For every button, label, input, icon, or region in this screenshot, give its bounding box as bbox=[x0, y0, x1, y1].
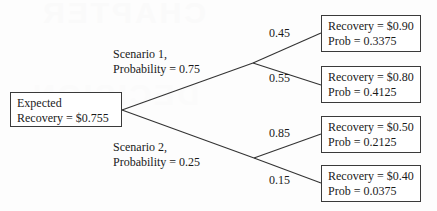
leaf-node-1: Recovery = $0.90 Prob = 0.3375 bbox=[321, 15, 421, 52]
leaf-node-3: Recovery = $0.50 Prob = 0.2125 bbox=[321, 116, 421, 153]
branch-label-scenario-1-line-2: Probability = 0.75 bbox=[113, 62, 200, 77]
leaf-node-2-prob: Prob = 0.4125 bbox=[328, 85, 415, 100]
leaf-node-1-recovery: Recovery = $0.90 bbox=[328, 19, 415, 34]
leaf-node-2-recovery: Recovery = $0.80 bbox=[328, 70, 415, 85]
edge-label-0-55: 0.55 bbox=[269, 71, 290, 85]
branch-label-scenario-2-line-2: Probability = 0.25 bbox=[113, 155, 200, 170]
edge-label-0-85: 0.85 bbox=[269, 126, 290, 140]
edge-label-0-15: 0.15 bbox=[269, 173, 290, 187]
leaf-node-2: Recovery = $0.80 Prob = 0.4125 bbox=[321, 66, 421, 103]
branch-label-scenario-2-line-1: Scenario 2, bbox=[113, 140, 200, 155]
edge-label-0-45: 0.45 bbox=[269, 26, 290, 40]
branch-label-scenario-1: Scenario 1, Probability = 0.75 bbox=[113, 47, 200, 77]
branch-label-scenario-1-line-1: Scenario 1, bbox=[113, 47, 200, 62]
leaf-node-4-recovery: Recovery = $0.40 bbox=[328, 169, 415, 184]
root-node-line-1: Expected bbox=[17, 96, 116, 111]
leaf-node-4: Recovery = $0.40 Prob = 0.0375 bbox=[321, 165, 421, 202]
branch-label-scenario-2: Scenario 2, Probability = 0.25 bbox=[113, 140, 200, 170]
leaf-node-3-prob: Prob = 0.2125 bbox=[328, 135, 415, 150]
root-node-line-2: Recovery = $0.755 bbox=[17, 111, 116, 126]
root-node-expected-recovery: Expected Recovery = $0.755 bbox=[10, 92, 122, 127]
leaf-node-1-prob: Prob = 0.3375 bbox=[328, 34, 415, 49]
decision-tree-figure: CHAPTER DECISION Expected Recovery = $0.… bbox=[0, 0, 437, 211]
leaf-node-3-recovery: Recovery = $0.50 bbox=[328, 120, 415, 135]
leaf-node-4-prob: Prob = 0.0375 bbox=[328, 184, 415, 199]
